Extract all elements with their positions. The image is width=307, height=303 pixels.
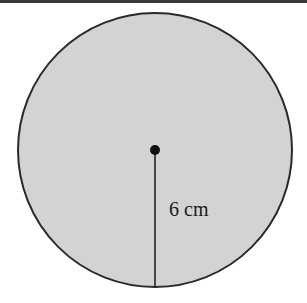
circle-diagram: 6 cm bbox=[0, 0, 307, 303]
radius-label: 6 cm bbox=[169, 198, 209, 220]
center-point bbox=[150, 145, 160, 155]
